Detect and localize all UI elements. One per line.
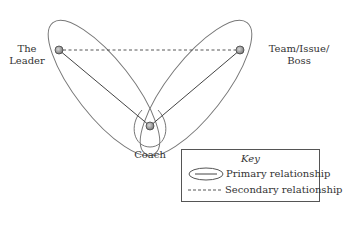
legend-secondary-label: Secondary relationship — [225, 184, 343, 195]
leader-node — [55, 46, 63, 54]
coach-node — [146, 122, 154, 130]
leader-label-line2: Leader — [8, 55, 46, 67]
team-node — [236, 46, 244, 54]
coach-label: Coach — [125, 149, 175, 161]
leader-label: The Leader — [8, 43, 46, 67]
team-label-line1: Team/Issue/ — [264, 43, 334, 55]
team-coach-line — [150, 50, 240, 126]
legend-primary-label: Primary relationship — [226, 168, 330, 179]
team-label: Team/Issue/ Boss — [264, 43, 334, 67]
leader-coach-line — [59, 50, 150, 126]
legend-box: Key Primary relationship Secondary relat… — [181, 149, 320, 202]
leader-label-line1: The — [8, 43, 46, 55]
team-label-line2: Boss — [264, 55, 334, 67]
